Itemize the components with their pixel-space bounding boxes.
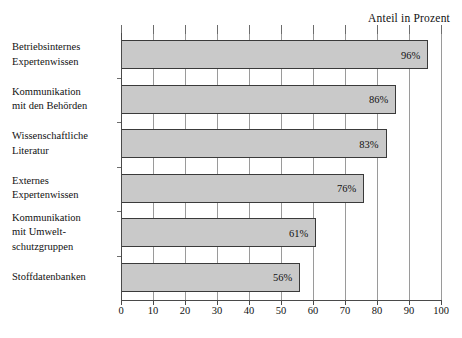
category-label-line: mit Umwelt- <box>12 225 113 240</box>
x-tick-label-30: 30 <box>212 305 223 316</box>
x-tick-label-90: 90 <box>404 305 415 316</box>
bar: 86% <box>121 85 396 114</box>
category-label-line: Literatur <box>12 144 113 159</box>
category-label-line: schutzgruppen <box>12 240 113 255</box>
bar: 83% <box>121 129 387 158</box>
x-tick-label-50: 50 <box>276 305 287 316</box>
x-tick-label-0: 0 <box>118 305 123 316</box>
y-axis-line <box>121 33 122 300</box>
bar-value-label: 83% <box>359 138 378 149</box>
chart-title: Anteil in Prozent <box>368 12 450 24</box>
bar-value-label: 76% <box>337 183 356 194</box>
category-label-line: Kommunikation <box>12 211 113 226</box>
x-axis-tick-labels: 0102030405060708090100 <box>121 305 451 325</box>
bar-value-label: 96% <box>401 49 420 60</box>
x-tick-label-60: 60 <box>308 305 319 316</box>
bar-value-label: 61% <box>289 227 308 238</box>
category-label-line: Expertenwissen <box>12 188 113 203</box>
category-label: WissenschaftlicheLiteratur <box>12 129 113 158</box>
category-label-line: Betriebsinternes <box>12 40 113 55</box>
bar: 76% <box>121 174 364 203</box>
bar-value-label: 86% <box>369 94 388 105</box>
category-label: Kommunikationmit Umwelt-schutzgruppen <box>12 211 113 255</box>
category-label-line: Expertenwissen <box>12 55 113 70</box>
x-tick-label-10: 10 <box>148 305 159 316</box>
category-label-line: Externes <box>12 174 113 189</box>
x-tick-label-70: 70 <box>340 305 351 316</box>
x-axis-line <box>121 300 442 301</box>
top-tick-100 <box>441 25 442 34</box>
gridline-100 <box>441 33 442 300</box>
category-label-line: Wissenschaftliche <box>12 129 113 144</box>
bar-value-label: 56% <box>273 272 292 283</box>
bars: 96%86%83%76%61%56% <box>121 33 441 300</box>
category-label: Stoffdatenbanken <box>12 270 113 285</box>
category-label-line: Stoffdatenbanken <box>12 270 113 285</box>
x-tick-label-20: 20 <box>180 305 191 316</box>
x-tick-label-80: 80 <box>372 305 383 316</box>
bar: 61% <box>121 218 316 247</box>
category-label-line: mit den Behörden <box>12 99 113 114</box>
bar: 56% <box>121 263 300 292</box>
bar: 96% <box>121 40 428 69</box>
category-label: Kommunikationmit den Behörden <box>12 85 113 114</box>
plot-area: 96%86%83%76%61%56% <box>121 33 441 300</box>
bar-chart: Anteil in Prozent BetriebsinternesExpert… <box>0 0 462 338</box>
x-tick-label-40: 40 <box>244 305 255 316</box>
category-axis-labels: BetriebsinternesExpertenwissenKommunikat… <box>0 33 113 300</box>
x-tick-label-100: 100 <box>433 305 449 316</box>
category-label: ExternesExpertenwissen <box>12 174 113 203</box>
category-label: BetriebsinternesExpertenwissen <box>12 40 113 69</box>
category-label-line: Kommunikation <box>12 85 113 100</box>
